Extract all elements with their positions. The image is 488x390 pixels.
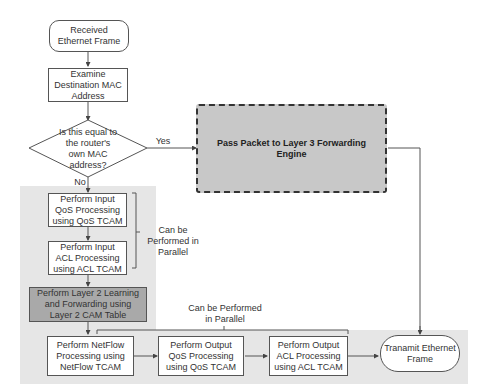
no-label: No: [72, 177, 88, 188]
yes-label: Yes: [153, 136, 173, 147]
start-node: Received Ethernet Frame: [49, 20, 129, 52]
netflow-step: Perform NetFlow Processing using NetFlow…: [47, 336, 134, 376]
examine-mac-step: Examine Destination MAC Address: [48, 68, 128, 102]
decision-text: Is this equal to the router's own MAC ad…: [58, 127, 118, 171]
input-qos-step: Perform Input QoS Processing using QoS T…: [48, 193, 127, 227]
input-acl-step: Perform Input ACL Processing using ACL T…: [48, 241, 127, 275]
output-acl-step: Perform Output ACL Processing using ACL …: [269, 336, 348, 376]
parallel-note-input: Can be Performed in Parallel: [138, 225, 208, 258]
parallel-note-output: Can be Performed in Parallel: [186, 303, 264, 325]
transmit-node: Tranamit Ethernet Frame: [380, 335, 460, 372]
output-qos-step: Perform Output QoS Processing using QoS …: [158, 336, 244, 376]
layer3-forwarding-node: Pass Packet to Layer 3 Forwarding Engine: [196, 104, 387, 193]
layer2-forwarding-step: Perform Layer 2 Learning and Forwarding …: [29, 287, 147, 322]
